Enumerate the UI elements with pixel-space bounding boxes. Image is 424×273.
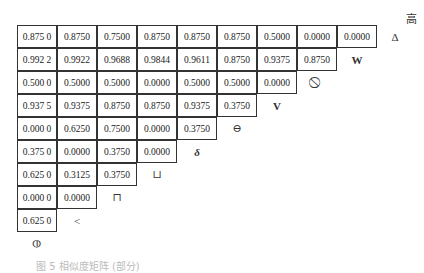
matrix-cell: 0.9375 bbox=[57, 94, 97, 117]
matrix-cell: 0.9375 bbox=[177, 94, 217, 117]
matrix-cell: 0.625 0 bbox=[17, 209, 57, 232]
figure-caption: 图 5 相似度矩阵 (部分) bbox=[36, 258, 140, 273]
matrix-cell: 0.5000 bbox=[97, 71, 137, 94]
matrix-cell: 0.8750 bbox=[57, 25, 97, 48]
row-symbol-icon: V bbox=[257, 94, 297, 117]
matrix-cell: 0.8750 bbox=[217, 48, 257, 71]
matrix-cell: 0.8750 bbox=[177, 25, 217, 48]
matrix-cell: 0.8750 bbox=[217, 25, 257, 48]
row-symbol-icon: ⦶ bbox=[17, 232, 57, 255]
row-symbol-icon: ⊓ bbox=[97, 186, 137, 209]
matrix-cell: 0.0000 bbox=[257, 71, 297, 94]
matrix-cell: 0.3750 bbox=[217, 94, 257, 117]
matrix-cell: 0.7500 bbox=[97, 117, 137, 140]
matrix-cell: 0.875 0 bbox=[17, 25, 57, 48]
matrix-cell: 0.0000 bbox=[137, 71, 177, 94]
matrix-cell: 0.0000 bbox=[297, 25, 337, 48]
matrix-cell: 0.0000 bbox=[137, 117, 177, 140]
matrix-cell: 0.9844 bbox=[137, 48, 177, 71]
row-symbol-icon: ⃠ bbox=[297, 71, 337, 94]
matrix-cell: 0.3125 bbox=[57, 163, 97, 186]
matrix-cell: 0.5000 bbox=[177, 71, 217, 94]
matrix-cell: 0.000 0 bbox=[17, 186, 57, 209]
matrix-cell: 0.375 0 bbox=[17, 140, 57, 163]
matrix-cell: 0.6250 bbox=[57, 117, 97, 140]
matrix-cell: 0.000 0 bbox=[17, 117, 57, 140]
matrix-cell: 0.0000 bbox=[57, 186, 97, 209]
row-symbol-icon: ⊖ bbox=[217, 117, 257, 140]
matrix-cell: 0.7500 bbox=[97, 25, 137, 48]
matrix-cell: 0.5000 bbox=[257, 25, 297, 48]
row-symbol-icon: W bbox=[337, 48, 377, 71]
corner-label: 高 bbox=[406, 10, 417, 26]
matrix-cell: 0.3750 bbox=[177, 117, 217, 140]
matrix-cell: 0.8750 bbox=[97, 94, 137, 117]
matrix-cell: 0.3750 bbox=[97, 163, 137, 186]
matrix-cell: 0.9922 bbox=[57, 48, 97, 71]
row-symbol-icon: Δ bbox=[375, 25, 415, 48]
matrix-cell: 0.0000 bbox=[337, 25, 377, 48]
matrix-cell: 0.5000 bbox=[57, 71, 97, 94]
row-symbol-icon: ⊔ bbox=[137, 163, 177, 186]
matrix-cell: 0.9611 bbox=[177, 48, 217, 71]
matrix-cell: 0.8750 bbox=[137, 25, 177, 48]
matrix-cell: 0.5000 bbox=[217, 71, 257, 94]
matrix-cell: 0.0000 bbox=[57, 140, 97, 163]
matrix-cell: 0.9375 bbox=[257, 48, 297, 71]
matrix-cell: 0.8750 bbox=[297, 48, 337, 71]
matrix-cell: 0.937 5 bbox=[17, 94, 57, 117]
matrix-cell: 0.625 0 bbox=[17, 163, 57, 186]
matrix-cell: 0.0000 bbox=[137, 140, 177, 163]
matrix-cell: 0.992 2 bbox=[17, 48, 57, 71]
matrix-cell: 0.8750 bbox=[137, 94, 177, 117]
matrix-cell: 0.9688 bbox=[97, 48, 137, 71]
matrix-cell: 0.500 0 bbox=[17, 71, 57, 94]
row-symbol-icon: δ bbox=[177, 140, 217, 163]
matrix-cell: 0.3750 bbox=[97, 140, 137, 163]
row-symbol-icon: < bbox=[57, 209, 97, 232]
